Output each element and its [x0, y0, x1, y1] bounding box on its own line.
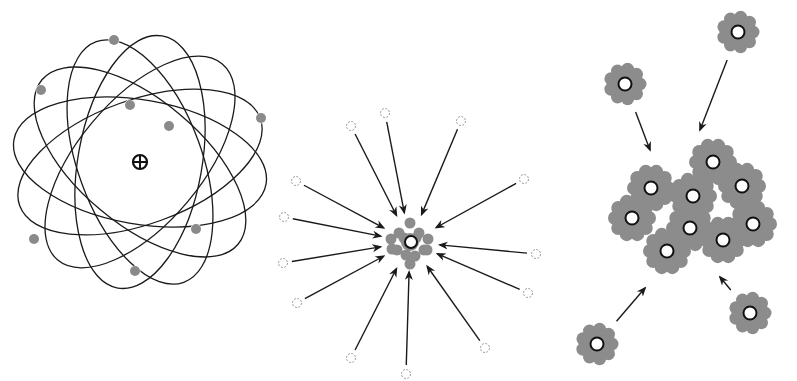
diagram-canvas — [0, 0, 797, 381]
core-ring-icon — [645, 182, 658, 195]
electron-dot — [29, 234, 39, 244]
arrow-icon — [700, 60, 727, 130]
electron-dot — [125, 100, 135, 110]
ghost-particle — [347, 122, 356, 131]
arrow-icon — [387, 122, 405, 213]
nucleus-plus-icon — [131, 153, 149, 171]
electron-dot — [164, 121, 174, 131]
core-ring-icon — [736, 180, 749, 193]
arrow-icon — [636, 112, 650, 150]
collapse-panel — [279, 109, 541, 379]
ghost-particle — [402, 370, 411, 379]
core-ring-icon — [687, 190, 700, 203]
core-ring-icon — [744, 307, 757, 320]
core-ring-icon — [747, 218, 760, 231]
core-ring-icon — [707, 156, 720, 169]
arrow-icon — [440, 245, 527, 253]
electron-dot — [36, 85, 46, 95]
core-ring-icon — [732, 26, 745, 39]
arrow-icon — [293, 219, 381, 236]
core-ring-icon — [619, 78, 632, 91]
core-ring-icon — [661, 245, 674, 258]
arrow-icon — [305, 256, 384, 298]
ghost-particle — [293, 299, 302, 308]
core-ring-icon — [626, 212, 639, 225]
electron-dot — [109, 35, 119, 45]
ghost-particle — [481, 344, 490, 353]
electron-dot — [130, 266, 140, 276]
arrow-icon — [617, 288, 645, 321]
arrow-icon — [355, 134, 396, 215]
electron-dot — [191, 224, 201, 234]
electron-dot — [256, 113, 266, 123]
ghost-particle — [520, 175, 529, 184]
ghost-particle — [279, 259, 288, 268]
arrow-icon — [436, 183, 516, 227]
ghost-particle — [347, 354, 356, 363]
arrow-icon — [422, 129, 458, 214]
core-ring-icon — [684, 222, 697, 235]
arrow-icon — [355, 269, 396, 350]
core-ring-icon — [717, 234, 730, 247]
arrow-icon — [720, 277, 731, 290]
arrow-icon — [438, 254, 520, 290]
ghost-particle — [532, 250, 541, 259]
clustering-panel — [576, 11, 777, 366]
ghost-particle — [524, 289, 533, 298]
ghost-particle — [457, 117, 466, 126]
merged-cluster — [608, 139, 777, 274]
ghost-particle — [292, 177, 301, 186]
diagram-svg — [0, 0, 797, 381]
ghost-particle — [280, 213, 289, 222]
atom-panel — [0, 21, 281, 304]
core-ring-icon — [591, 338, 604, 351]
arrow-icon — [304, 185, 384, 228]
ghost-particle — [381, 109, 390, 118]
arrow-icon — [292, 247, 381, 262]
arrow-icon — [406, 272, 409, 365]
core-ring-icon — [405, 236, 417, 248]
arrow-icon — [427, 266, 479, 340]
